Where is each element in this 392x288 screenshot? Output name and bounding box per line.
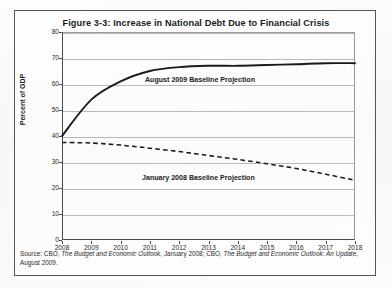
plot-area	[62, 32, 355, 240]
source-line-2: August 2009.	[20, 259, 58, 266]
x-tick-mark	[238, 241, 239, 244]
gridline	[63, 111, 354, 112]
x-tick-mark	[62, 241, 63, 244]
x-tick-mark	[296, 241, 297, 244]
x-tick-mark	[150, 241, 151, 244]
page-title: Figure 3-3: Increase in National Debt Du…	[15, 18, 377, 28]
y-tick-mark	[59, 214, 62, 215]
y-tick-label: 50	[39, 106, 59, 113]
y-tick-mark	[59, 110, 62, 111]
y-tick-label: 0	[39, 236, 59, 243]
x-tick-mark	[121, 241, 122, 244]
source-italic-1: The Budget and Economic Outlook	[61, 250, 160, 257]
source-note: Source: CBO, The Budget and Economic Out…	[20, 249, 368, 268]
y-tick-label: 10	[39, 210, 59, 217]
x-tick-mark	[355, 241, 356, 244]
y-tick-mark	[59, 162, 62, 163]
y-tick-mark	[59, 136, 62, 137]
y-tick-label: 80	[39, 28, 59, 35]
source-mid: , January 2008; CBO,	[160, 250, 223, 257]
y-axis-title: Percent of GDP	[19, 55, 26, 145]
y-tick-mark	[59, 58, 62, 59]
y-tick-mark	[59, 188, 62, 189]
x-tick-mark	[179, 241, 180, 244]
gridline	[63, 215, 354, 216]
gridline	[63, 59, 354, 60]
gridline	[63, 85, 354, 86]
y-tick-label: 70	[39, 54, 59, 61]
gridline	[63, 137, 354, 138]
x-tick-mark	[267, 241, 268, 244]
gridline	[63, 163, 354, 164]
y-tick-label: 40	[39, 132, 59, 139]
gridline	[63, 189, 354, 190]
y-tick-label: 20	[39, 184, 59, 191]
annotation-august-2009: August 2009 Baseline Projection	[145, 76, 255, 84]
annotation-january-2008: January 2008 Baseline Projection	[142, 174, 255, 182]
y-tick-mark	[59, 32, 62, 33]
source-italic-2: The Budget and Economic Outlook: An Upda…	[224, 250, 357, 257]
source-prefix: Source: CBO,	[20, 250, 61, 257]
y-tick-mark	[59, 84, 62, 85]
x-tick-mark	[326, 241, 327, 244]
x-tick-mark	[91, 241, 92, 244]
gridline	[63, 33, 354, 34]
source-suffix: ,	[356, 250, 358, 257]
y-tick-label: 30	[39, 158, 59, 165]
x-tick-mark	[209, 241, 210, 244]
y-tick-label: 60	[39, 80, 59, 87]
